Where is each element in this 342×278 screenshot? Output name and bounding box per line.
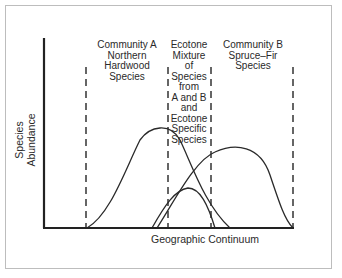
curve-community-b: [157, 147, 293, 228]
y-axis-label: Species Abundance: [13, 95, 37, 185]
zone-label-community-b: Community B Spruce–Fir Species: [213, 40, 293, 72]
zone-label-ecotone: Ecotone Mixture of Species from A and B …: [168, 40, 210, 145]
zone-label-community-a: Community A Northern Hardwood Species: [88, 40, 166, 82]
x-axis-label: Geographic Continuum: [130, 233, 280, 245]
